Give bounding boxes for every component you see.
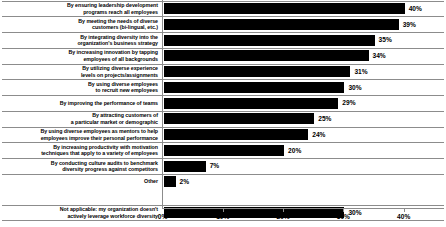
category-label-line-2: a particular market or demographic bbox=[0, 119, 158, 126]
bar bbox=[164, 50, 369, 61]
category-label-line-2: diversity progress against competitors bbox=[0, 166, 158, 173]
bar bbox=[164, 35, 375, 46]
chart-row: By ensuring leadership developmentprogra… bbox=[0, 1, 446, 17]
category-label-line-1: Other bbox=[144, 178, 158, 184]
x-axis-line bbox=[162, 208, 444, 209]
bar bbox=[164, 161, 206, 172]
bar bbox=[164, 98, 339, 109]
category-label-line-2: actively leverage workforce diversity bbox=[0, 213, 158, 220]
category-label-line-1: By conducting culture audits to benchmar… bbox=[51, 160, 158, 166]
bar-value-label: 25% bbox=[318, 113, 331, 124]
row-gridline bbox=[2, 220, 444, 221]
category-label: By ensuring leadership developmentprogra… bbox=[0, 2, 158, 15]
category-label: By using diverse employees as mentors to… bbox=[0, 128, 158, 141]
bar bbox=[164, 82, 345, 93]
x-axis-tick bbox=[404, 208, 405, 212]
bar bbox=[164, 3, 405, 14]
x-axis-tick bbox=[283, 208, 284, 212]
bar-value-label: 24% bbox=[312, 129, 325, 140]
chart-row: By improving the performance of teams29% bbox=[0, 95, 446, 111]
category-label: By using diverse employeesto recruit new… bbox=[0, 81, 158, 94]
bar-value-label: 31% bbox=[354, 66, 367, 77]
bar-value-label: 20% bbox=[288, 145, 301, 156]
category-label: By increasing productivity with motivati… bbox=[0, 144, 158, 157]
category-label-line-1: By using diverse employees as mentors to… bbox=[40, 128, 158, 134]
category-label: By conducting culture audits to benchmar… bbox=[0, 160, 158, 173]
row-gridline bbox=[2, 174, 444, 175]
category-label-line-2: customers (bi-lingual, etc.) bbox=[0, 24, 158, 31]
category-label-line-1: By meeting the needs of diverse bbox=[78, 18, 158, 24]
x-axis-tick bbox=[343, 208, 344, 212]
bar-value-label: 39% bbox=[403, 19, 416, 30]
x-axis-tick bbox=[223, 208, 224, 212]
category-label-line-1: Not applicable: my organization doesn't bbox=[60, 206, 158, 212]
category-label-line-2: techniques that apply to a variety of em… bbox=[0, 150, 158, 157]
chart-row: By increasing innovation by tappingemplo… bbox=[0, 48, 446, 64]
category-label: Not applicable: my organization doesn'ta… bbox=[0, 206, 158, 219]
category-label-line-2: programs reach all employees bbox=[0, 9, 158, 16]
bar-value-label: 30% bbox=[348, 82, 361, 93]
horizontal-bar-chart: By ensuring leadership developmentprogra… bbox=[0, 0, 446, 227]
category-label-line-1: By attracting customers of bbox=[92, 112, 158, 118]
bar bbox=[164, 145, 285, 156]
chart-row: By using diverse employees as mentors to… bbox=[0, 127, 446, 143]
category-label-line-1: By increasing innovation by tapping bbox=[69, 49, 159, 55]
chart-row: By utilizing diverse experiencelevels on… bbox=[0, 64, 446, 80]
bar bbox=[164, 176, 176, 187]
category-label: By integrating diversity into theorganiz… bbox=[0, 34, 158, 47]
bar-value-label: 35% bbox=[379, 34, 392, 45]
chart-row: By attracting customers ofa particular m… bbox=[0, 111, 446, 127]
chart-row: By increasing productivity with motivati… bbox=[0, 142, 446, 158]
bar-value-label: 2% bbox=[180, 176, 190, 187]
category-label: Other bbox=[0, 178, 158, 185]
category-label-line-1: By improving the performance of teams bbox=[60, 100, 158, 106]
chart-row: Other2% bbox=[0, 174, 446, 190]
category-label-line-2: organization's business strategy bbox=[0, 40, 158, 47]
bar-value-label: 29% bbox=[342, 97, 355, 108]
category-label: By attracting customers ofa particular m… bbox=[0, 112, 158, 125]
bar-value-label: 40% bbox=[409, 3, 422, 14]
chart-row: By integrating diversity into theorganiz… bbox=[0, 32, 446, 48]
category-label: By improving the performance of teams bbox=[0, 100, 158, 107]
category-label-line-1: By ensuring leadership development bbox=[67, 2, 158, 8]
category-label-line-1: By utilizing diverse experience bbox=[82, 65, 158, 71]
category-label-line-2: employees of all backgrounds bbox=[0, 56, 158, 63]
bar-value-label: 7% bbox=[210, 160, 220, 171]
chart-row: By conducting culture audits to benchmar… bbox=[0, 158, 446, 174]
category-label-line-1: By increasing productivity with motivati… bbox=[53, 144, 158, 150]
chart-row: By using diverse employeesto recruit new… bbox=[0, 79, 446, 95]
category-label-line-1: By using diverse employees bbox=[88, 81, 158, 87]
bar bbox=[164, 19, 399, 30]
category-label-line-2: to recruit new employees bbox=[0, 87, 158, 94]
category-label: By utilizing diverse experiencelevels on… bbox=[0, 65, 158, 78]
bar-value-label: 34% bbox=[373, 50, 386, 61]
category-label: By increasing innovation by tappingemplo… bbox=[0, 49, 158, 62]
bar bbox=[164, 129, 309, 140]
bar bbox=[164, 66, 351, 77]
row-gridline bbox=[2, 95, 444, 96]
bar bbox=[164, 113, 315, 124]
category-label-line-2: levels on projects/assignments bbox=[0, 72, 158, 79]
chart-row: By meeting the needs of diversecustomers… bbox=[0, 16, 446, 32]
category-label: By meeting the needs of diversecustomers… bbox=[0, 18, 158, 31]
y-axis-baseline bbox=[162, 0, 163, 209]
category-label-line-1: By integrating diversity into the bbox=[80, 34, 158, 40]
category-label-line-2: employees improve their personal perform… bbox=[0, 135, 158, 142]
